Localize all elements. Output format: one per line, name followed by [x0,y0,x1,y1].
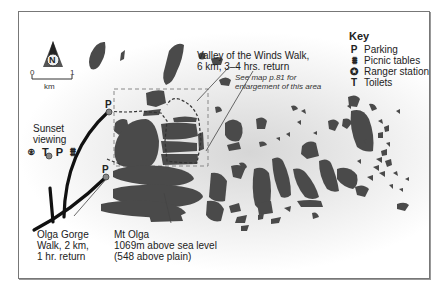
valley-walk-label-line2: 6 km, 3–4 hrs. return [197,61,289,72]
key-item-ranger: ✪ Ranger station [349,66,429,77]
key-item-parking: P Parking [349,44,398,55]
key-title: Key [349,30,369,42]
mt-olga-label-line1: Mt Olga [114,229,149,240]
scale-start: 0 [30,68,34,77]
key-item-label: Parking [364,44,398,55]
sunset-viewing-label-line2: viewing [33,134,66,145]
key-item-toilets: T Toilets [349,77,392,88]
olga-gorge-label-line2: Walk, 2 km, [37,240,89,251]
key-item-label: Toilets [364,77,392,88]
key-item-picnic: ⩩ Picnic tables [349,55,420,66]
olga-gorge-label-line1: Olga Gorge [37,229,89,240]
map-frame: N 0 1 km P P Valley of the Winds Walk, 6… [18,11,430,279]
scale-bar [32,75,72,79]
see-map-note-line1: See map p.81 for [235,73,296,82]
mt-olga-label-line2: 1069m above sea level [114,240,217,251]
see-map-note-line2: enlargement of this area [235,82,321,91]
toilets-icon: T [349,77,359,88]
parking-icon: P [349,44,359,55]
valley-walk-label-line1: Valley of the Winds Walk, [197,50,309,61]
parking-marker-valley: P [105,99,112,110]
mt-olga-label-line3: (548 above plain) [114,251,191,262]
olga-gorge-label-line3: 1 hr. return [37,251,85,262]
scale-unit: km [44,82,55,91]
sunset-facilities-icons: ⍟ T P ⩩ [28,146,78,159]
key-item-label: Picnic tables [364,55,420,66]
key-item-label: Ranger station [364,66,429,77]
sunset-viewing-label-line1: Sunset [33,123,64,134]
parking-marker-gorge: P [102,164,109,175]
compass-letter: N [49,55,56,66]
ranger-station-icon: ✪ [349,66,359,77]
picnic-table-icon: ⩩ [349,55,359,66]
scale-end: 1 [70,68,74,77]
